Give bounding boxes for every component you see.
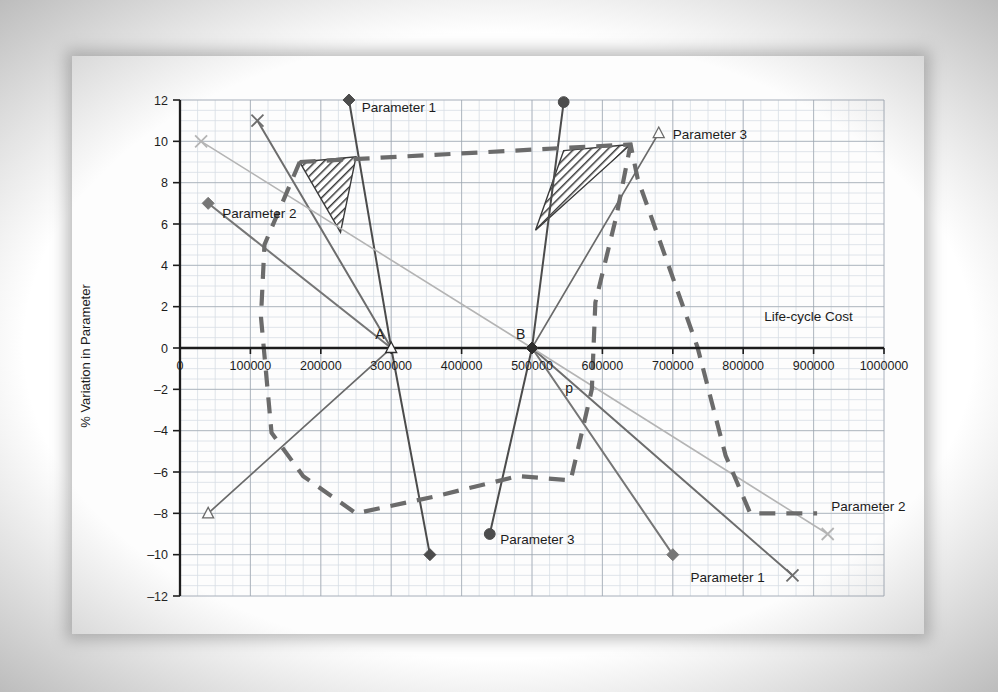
series-path	[261, 144, 631, 513]
label-parameter-2-left: Parameter 2	[222, 206, 296, 221]
diamond-marker	[343, 94, 355, 106]
series-7	[261, 144, 631, 513]
x-tick-label: 300000	[370, 359, 412, 373]
hatched-regions	[300, 144, 631, 232]
label-parameter-3-right: Parameter 3	[673, 127, 747, 142]
point-B: B	[516, 326, 525, 342]
point-p: p	[565, 380, 573, 396]
label-life-cycle-cost: Life-cycle Cost	[764, 309, 853, 324]
y-tick-label: 4	[161, 259, 168, 273]
label-parameter-1-top: Parameter 1	[362, 100, 436, 115]
point-A: A	[375, 326, 385, 342]
y-tick-label: ‒12	[147, 590, 168, 604]
label-parameter-1-bottom: Parameter 1	[690, 570, 764, 585]
y-tick-label: 2	[161, 300, 168, 314]
series-path	[490, 102, 564, 534]
y-tick-label: ‒8	[154, 507, 168, 521]
y-tick-label: ‒4	[154, 424, 168, 438]
circle-marker	[558, 97, 569, 108]
sensitivity-spider-chart: 0100000200000300000400000500000600000700…	[72, 56, 924, 634]
y-tick-label: 8	[161, 176, 168, 190]
x-tick-label: 100000	[230, 359, 272, 373]
x-tick-label: 1000000	[860, 359, 909, 373]
y-axis-title: % Variation in Parameter	[78, 284, 93, 428]
x-tick-label: 900000	[793, 359, 835, 373]
diamond-marker	[667, 549, 679, 561]
x-tick-label: 200000	[300, 359, 342, 373]
x-tick-label: 600000	[582, 359, 624, 373]
x-tick-label: 400000	[441, 359, 483, 373]
y-tick-label: 12	[154, 94, 168, 108]
x-tick-label: 500000	[511, 359, 553, 373]
series-path	[208, 133, 659, 513]
y-tick-label: ‒6	[154, 466, 168, 480]
y-tick-label: 10	[154, 135, 168, 149]
x-tick-label: 0	[177, 359, 184, 373]
x-tick-label: 700000	[652, 359, 694, 373]
chart-figure: 0100000200000300000400000500000600000700…	[72, 56, 924, 634]
x-tick-label: 800000	[722, 359, 764, 373]
y-tick-label: 6	[161, 218, 168, 232]
label-parameter-2-right: Parameter 2	[831, 499, 905, 514]
label-parameter-3-bottom: Parameter 3	[500, 532, 574, 547]
y-tick-label: ‒2	[154, 383, 168, 397]
diamond-marker	[424, 549, 436, 561]
circle-marker	[484, 529, 495, 540]
y-tick-label: ‒10	[147, 548, 168, 562]
y-tick-label: 0	[161, 342, 168, 356]
